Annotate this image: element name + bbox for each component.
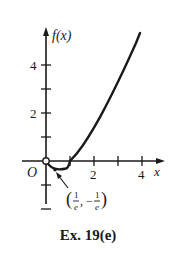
origin-label: O: [27, 166, 37, 180]
function-curve: [46, 33, 140, 169]
min-label-den-2: e: [95, 202, 99, 212]
min-label-den-1: e: [74, 202, 78, 212]
y-axis-label: f(x): [52, 29, 71, 43]
y-axis-arrow-icon: [43, 27, 49, 36]
y-tick-label-2: 2: [30, 107, 37, 120]
min-label-comma: , −: [80, 195, 93, 207]
min-label-num-1: 1: [74, 190, 79, 200]
y-tick-label-4: 4: [30, 59, 37, 72]
x-tick-label-4: 4: [138, 168, 145, 181]
min-label-open-paren: (: [66, 190, 72, 208]
plot-canvas: [0, 0, 176, 257]
annotation-arrowhead-icon: [56, 172, 62, 179]
x-axis-label: x: [154, 165, 160, 178]
min-label-close-paren: ): [101, 190, 107, 208]
min-label-num-2: 1: [95, 190, 100, 200]
minimum-point: [53, 168, 57, 172]
open-circle-origin: [43, 158, 49, 164]
figure-caption: Ex. 19(e): [0, 227, 176, 244]
x-tick-label-2: 2: [90, 168, 97, 181]
